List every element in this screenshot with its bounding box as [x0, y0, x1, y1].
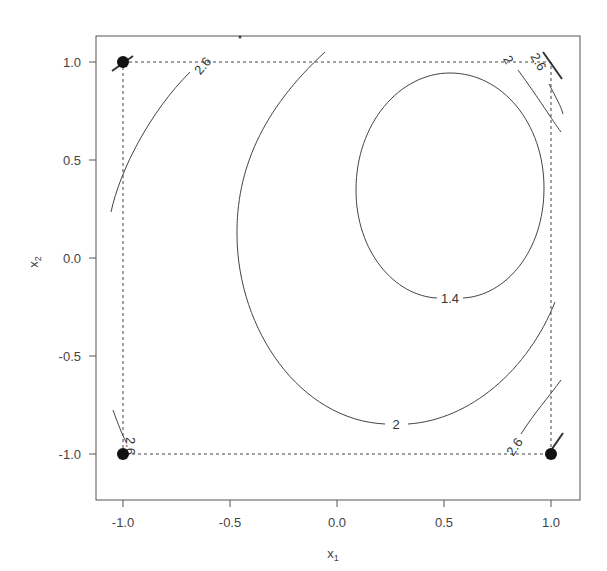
- contour-label-2.6: 2.6: [527, 50, 549, 73]
- x-tick-label: 1.0: [542, 515, 560, 530]
- contour-2: [237, 52, 385, 424]
- contour-2-topright: [518, 70, 561, 132]
- x-tick-label: 0.5: [435, 515, 453, 530]
- y-tick-label: -0.5: [59, 349, 81, 364]
- x-tick-label: -1.0: [112, 515, 134, 530]
- design-point: [117, 448, 129, 460]
- y-tick-label: 0.0: [63, 251, 81, 266]
- contour-1.4: [356, 73, 544, 298]
- design-point: [117, 56, 129, 68]
- contour-label-1.4: 1.4: [441, 291, 459, 306]
- contour-label-2: 2: [500, 53, 517, 67]
- plot-frame: [96, 36, 580, 500]
- x-axis: [123, 500, 551, 507]
- y-axis: [89, 62, 96, 454]
- y-tick-label: 1.0: [63, 55, 81, 70]
- design-point: [545, 448, 557, 460]
- x-tick-label: -0.5: [219, 515, 241, 530]
- x-axis-label: x1: [327, 546, 339, 563]
- contour-label-2.6: 2.6: [191, 54, 214, 77]
- y-axis-label: x2: [26, 256, 43, 268]
- contour-label-2.6: 2.6: [503, 435, 526, 458]
- contour-2: [408, 302, 555, 424]
- y-tick-label: -1.0: [59, 447, 81, 462]
- contour-2.6-bottomright: [521, 380, 561, 434]
- design-region: [123, 62, 551, 454]
- contour-label-2: 2: [392, 417, 399, 432]
- x-tick-label: 0.0: [328, 515, 346, 530]
- contour-2.6-bottomright-thick: [552, 433, 563, 449]
- y-tick-label: 0.5: [63, 153, 81, 168]
- marker-dot: [239, 36, 242, 39]
- contour-plot: -1.0 -0.5 0.0 0.5 1.0 x1 1.0 0.5 0.0 -0.…: [0, 0, 607, 571]
